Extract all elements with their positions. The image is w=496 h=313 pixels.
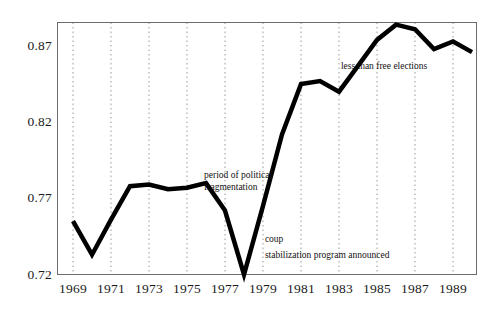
y-tick-0-72: 0.72 (14, 267, 52, 283)
annotation-political-fragmentation: period of politicalfragmentation (204, 170, 299, 193)
annotation-coup: coup (265, 234, 283, 246)
annotation-line-1: period of political (204, 170, 299, 182)
y-tick-0-82: 0.82 (14, 114, 52, 130)
chart-container: 0.870.820.770.72 19691971197319751977197… (0, 0, 496, 313)
y-tick-0-87: 0.87 (14, 38, 52, 54)
x-tick-1989: 1989 (429, 281, 477, 297)
annotation-less-than-free-elections: less than free elections (341, 61, 427, 73)
y-tick-0-77: 0.77 (14, 190, 52, 206)
annotation-stabilization-program: stabilization program announced (265, 250, 390, 262)
line-chart-plot (0, 0, 496, 313)
annotation-line-2: fragmentation (204, 182, 299, 194)
